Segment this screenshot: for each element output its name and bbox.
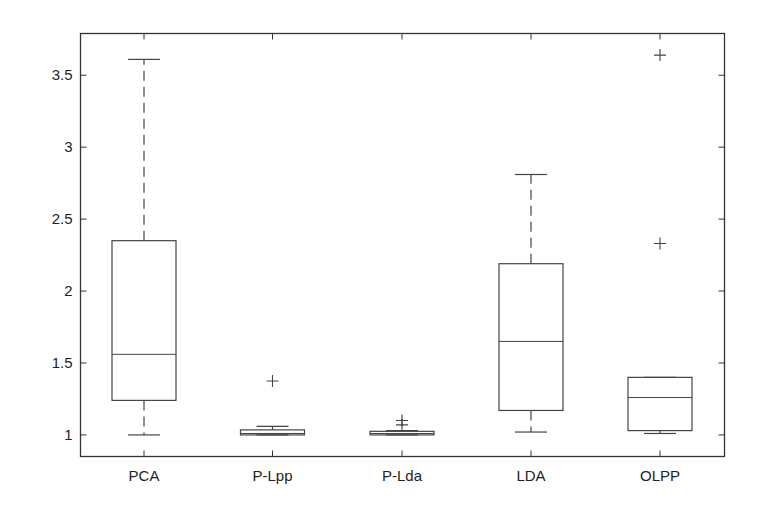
box-p-lpp bbox=[241, 375, 305, 435]
x-tick-label: PCA bbox=[129, 467, 160, 484]
y-tick-label: 1 bbox=[64, 426, 72, 443]
x-tick-label: P-Lda bbox=[382, 467, 423, 484]
iqr-box bbox=[499, 264, 563, 411]
y-tick-label: 3.5 bbox=[52, 66, 73, 83]
y-axis: 11.522.533.5 bbox=[52, 66, 725, 443]
box-p-lda bbox=[370, 415, 434, 435]
outlier-marker bbox=[654, 49, 666, 61]
boxplot-chart: 11.522.533.5 PCAP-LppP-LdaLDAOLPP bbox=[0, 0, 764, 505]
x-axis: PCAP-LppP-LdaLDAOLPP bbox=[129, 34, 680, 485]
iqr-box bbox=[112, 241, 176, 401]
box-lda bbox=[499, 175, 563, 433]
iqr-box bbox=[241, 430, 305, 435]
x-tick-label: LDA bbox=[516, 467, 545, 484]
outlier-marker bbox=[267, 375, 279, 387]
x-tick-label: P-Lpp bbox=[252, 467, 292, 484]
box-pca bbox=[112, 59, 176, 435]
x-tick-label: OLPP bbox=[640, 467, 680, 484]
box-olpp bbox=[628, 49, 692, 433]
box-series bbox=[112, 49, 692, 435]
y-tick-label: 3 bbox=[64, 138, 72, 155]
y-tick-label: 2.5 bbox=[52, 210, 73, 227]
y-tick-label: 2 bbox=[64, 282, 72, 299]
outlier-marker bbox=[654, 238, 666, 250]
y-tick-label: 1.5 bbox=[52, 354, 73, 371]
iqr-box bbox=[628, 377, 692, 430]
